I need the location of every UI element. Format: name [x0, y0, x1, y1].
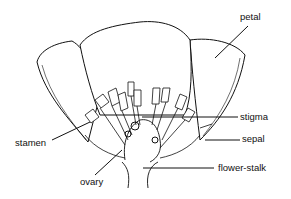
flower-stalk — [122, 162, 158, 188]
left-sepal — [85, 135, 125, 158]
flower-stalk-label: flower-stalk — [218, 163, 266, 173]
stamen-label: stamen — [15, 138, 46, 148]
flower-diagram: petal stigma stamen sepal ovary flower-s… — [0, 0, 291, 199]
ovary — [124, 120, 160, 162]
right-petal — [190, 39, 245, 140]
stigma-label: stigma — [240, 112, 268, 122]
ovary-leader — [95, 150, 122, 175]
petal-label: petal — [240, 12, 261, 22]
sepal-label: sepal — [242, 134, 265, 144]
ovary-label: ovary — [80, 177, 103, 187]
